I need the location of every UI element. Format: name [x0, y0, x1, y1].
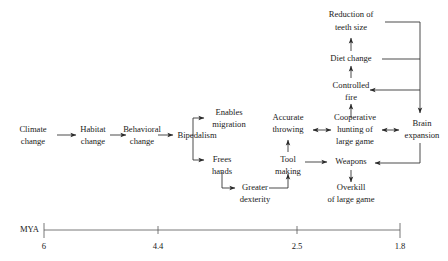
- node-bipedalism-line1: Bipedalism: [177, 130, 216, 140]
- node-habitat-change-line1: Habitat: [80, 124, 106, 134]
- node-overkill-large-game-line2: of large game: [327, 194, 374, 204]
- node-climate-change-line2: change: [21, 136, 46, 146]
- node-diet-change: Diet change: [330, 53, 371, 63]
- node-tool-making-line1: Tool: [280, 154, 296, 164]
- timeline-axis-title: MYA: [20, 224, 40, 234]
- node-reduction-teeth-size-line2: teeth size: [335, 22, 367, 32]
- node-habitat-change: Habitat change: [80, 124, 106, 146]
- timeline-tick-label-0: 6: [42, 241, 47, 251]
- node-frees-hands: Frees hands: [212, 154, 233, 176]
- node-climate-change: Climate change: [19, 124, 46, 146]
- node-climate-change-line1: Climate: [19, 124, 46, 134]
- edge-reduction-teeth-size-to-brain-expansion: [385, 22, 420, 113]
- node-enables-migration: Enables migration: [212, 107, 246, 129]
- timeline-tick-label-1: 4.4: [153, 241, 164, 251]
- timeline-axis: MYA 6 4.4 2.5 1.8: [20, 223, 405, 251]
- node-behavioral-change: Behavioral change: [123, 124, 161, 146]
- node-greater-dexterity-line1: Greater: [242, 182, 268, 192]
- node-cooperative-hunting-line3: large game: [336, 136, 374, 146]
- node-diet-change-line1: Diet change: [330, 53, 371, 63]
- node-tool-making-line2: making: [275, 166, 301, 176]
- node-frees-hands-line1: Frees: [213, 154, 232, 164]
- node-weapons-line1: Weapons: [335, 156, 367, 166]
- node-weapons: Weapons: [335, 156, 367, 166]
- node-brain-expansion-line2: expansion: [405, 130, 441, 140]
- timeline-tick-label-3: 1.8: [395, 241, 406, 251]
- node-behavioral-change-line2: change: [130, 136, 155, 146]
- node-brain-expansion: Brain expansion: [405, 118, 441, 140]
- evolution-flow-diagram: Climate change Habitat change Behavioral…: [0, 0, 448, 261]
- node-enables-migration-line1: Enables: [215, 107, 243, 117]
- node-cooperative-hunting-line1: Cooperative: [334, 112, 376, 122]
- node-behavioral-change-line1: Behavioral: [123, 124, 161, 134]
- node-accurate-throwing: Accurate throwing: [272, 112, 304, 134]
- node-accurate-throwing-line2: throwing: [272, 124, 304, 134]
- timeline-tick-label-2: 2.5: [292, 241, 303, 251]
- node-greater-dexterity-line2: dexterity: [240, 194, 271, 204]
- node-overkill-large-game: Overkill of large game: [327, 182, 374, 204]
- node-frees-hands-line2: hands: [212, 166, 233, 176]
- node-controlled-fire-line1: Controlled: [333, 80, 370, 90]
- edge-brain-expansion-to-weapons: [375, 143, 420, 163]
- node-greater-dexterity: Greater dexterity: [240, 182, 271, 204]
- node-cooperative-hunting-line2: hunting of: [337, 124, 373, 134]
- node-controlled-fire-line2: fire: [345, 92, 357, 102]
- node-overkill-large-game-line1: Overkill: [337, 182, 366, 192]
- node-cooperative-hunting: Cooperative hunting of large game: [334, 112, 376, 146]
- node-habitat-change-line2: change: [81, 136, 106, 146]
- node-bipedalism: Bipedalism: [177, 130, 216, 140]
- node-controlled-fire: Controlled fire: [333, 80, 370, 102]
- diagram-canvas: Climate change Habitat change Behavioral…: [0, 0, 448, 261]
- node-accurate-throwing-line1: Accurate: [272, 112, 303, 122]
- node-enables-migration-line2: migration: [212, 119, 246, 129]
- node-brain-expansion-line1: Brain: [412, 118, 432, 128]
- node-reduction-teeth-size: Reduction of teeth size: [329, 9, 374, 32]
- node-tool-making: Tool making: [275, 154, 301, 176]
- node-reduction-teeth-size-line1: Reduction of: [329, 9, 374, 19]
- edge-greater-dexterity-to-tool-making: [269, 174, 288, 188]
